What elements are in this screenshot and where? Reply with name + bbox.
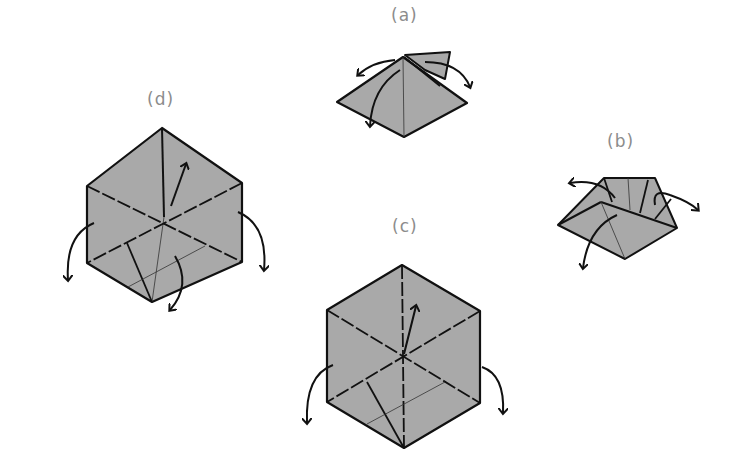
step-c-diagram	[307, 265, 503, 448]
folding-diagram	[0, 0, 730, 473]
step-b-diagram	[558, 178, 698, 268]
step-a-diagram	[337, 52, 470, 137]
step-d-diagram	[68, 128, 265, 310]
fold-arrow-icon	[482, 367, 503, 413]
